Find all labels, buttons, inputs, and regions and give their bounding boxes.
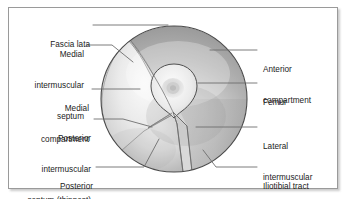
label-anterior-compartment-line-0: Anterior (263, 65, 343, 75)
label-posterior-compartment: Posterior compartment (10, 162, 93, 199)
label-iliotibial-tract: Iliotibial tract (263, 162, 343, 199)
anatomy-figure: Fascia lata Medial intermuscular septum … (0, 0, 348, 199)
label-medial-intermuscular-septum-line-0: Medial (10, 50, 84, 60)
label-femur-line-0: Femur (263, 98, 333, 108)
label-lateral-intermuscular-septum-line-0: Lateral (263, 142, 345, 152)
limb-cross-section (101, 26, 247, 178)
label-posterior-intermuscular-septum-line-0: Posterior (8, 134, 91, 144)
label-iliotibial-tract-line-0: Iliotibial tract (263, 182, 343, 192)
medullary-canal-inner (170, 85, 176, 91)
label-posterior-compartment-line-0: Posterior (10, 182, 93, 192)
